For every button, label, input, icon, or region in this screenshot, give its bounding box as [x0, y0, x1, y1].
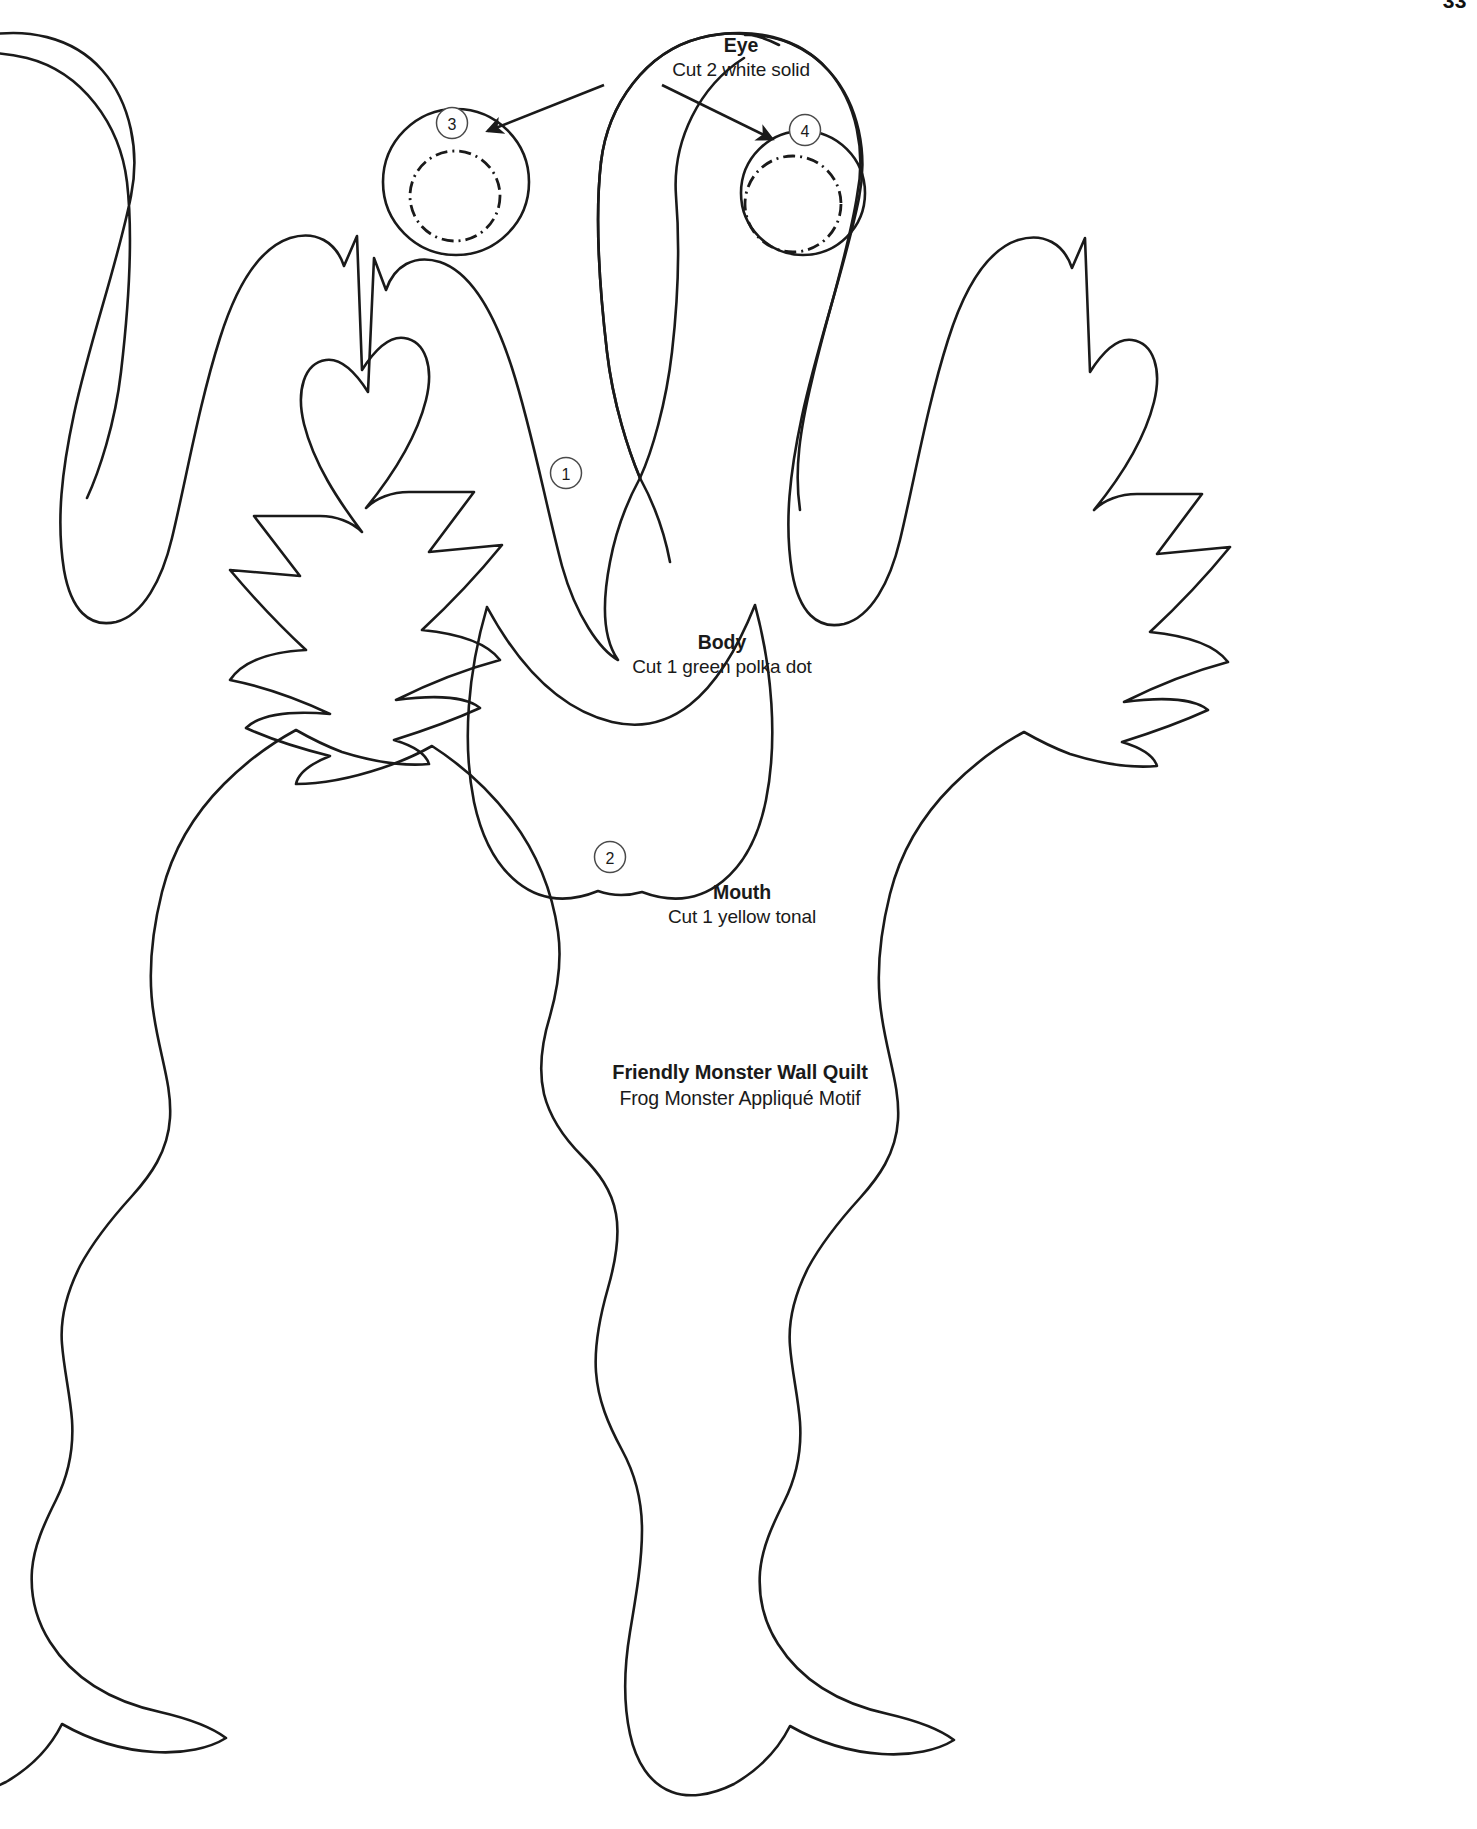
right-eye-outer-circle	[741, 131, 865, 255]
arrow-to-left-eye	[488, 85, 604, 131]
body-piece-name: Body	[632, 630, 812, 655]
mouth-marker-number: 2	[606, 850, 615, 867]
body-outline-path	[0, 33, 502, 1793]
arrow-to-right-eye	[662, 85, 772, 139]
left-eye-marker-number: 3	[448, 116, 457, 133]
mouth-label-block: Mouth Cut 1 yellow tonal	[668, 880, 816, 929]
page-number: 33	[1443, 0, 1467, 13]
body-marker-number: 1	[562, 466, 571, 483]
pattern-title-block: Friendly Monster Wall Quilt Frog Monster…	[612, 1060, 867, 1111]
eye-cut-instruction: Cut 2 white solid	[672, 58, 810, 82]
mouth-cut-instruction: Cut 1 yellow tonal	[668, 905, 816, 929]
eye-label-block: Eye Cut 2 white solid	[672, 33, 810, 82]
left-eye-stalk	[598, 33, 860, 510]
body-label-block: Body Cut 1 green polka dot	[632, 630, 812, 679]
left-eye-piece: 3	[383, 108, 529, 256]
right-eye-marker-number: 4	[801, 123, 810, 140]
body-marker: 1	[551, 458, 582, 489]
mouth-piece-name: Mouth	[668, 880, 816, 905]
eye-piece-name: Eye	[672, 33, 810, 58]
pattern-title: Friendly Monster Wall Quilt	[612, 1060, 867, 1086]
eye-stalk-notch	[640, 58, 744, 562]
right-eye-piece: 4	[741, 115, 865, 256]
pattern-subtitle: Frog Monster Appliqué Motif	[612, 1086, 867, 1111]
pattern-sheet: 3 4 2 1 Eye Cut 2 wh	[0, 0, 1477, 1829]
left-eye-seam-line	[410, 151, 500, 241]
body-cut-instruction: Cut 1 green polka dot	[632, 655, 812, 679]
